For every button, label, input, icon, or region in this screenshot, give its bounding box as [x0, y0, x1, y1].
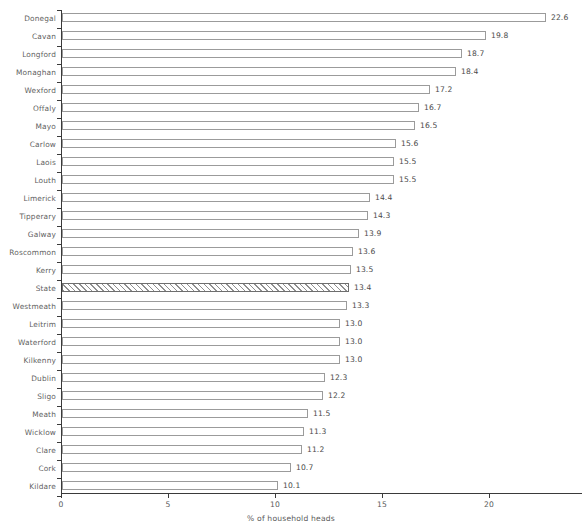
category-label: Longford: [0, 48, 56, 62]
bar-row: Donegal22.6: [62, 10, 582, 28]
bar: [62, 175, 394, 184]
bar-value-label: 13.4: [354, 281, 371, 294]
bar-value-label: 13.3: [352, 299, 369, 312]
category-label: Limerick: [0, 192, 56, 206]
category-label: State: [0, 282, 56, 296]
x-axis-tick: [168, 493, 169, 498]
y-axis-tick: [57, 370, 62, 371]
bar-row: Westmeath13.3: [62, 298, 582, 316]
bar-value-label: 13.0: [345, 317, 362, 330]
bar-value-label: 14.3: [373, 209, 390, 222]
bar-value-label: 18.4: [461, 65, 478, 78]
bar: [62, 31, 486, 40]
x-axis-tick-label: 0: [41, 500, 81, 509]
bar: [62, 139, 396, 148]
bar: [62, 337, 340, 346]
bar-value-label: 12.2: [328, 389, 345, 402]
bar: [62, 427, 304, 436]
y-axis-tick: [57, 478, 62, 479]
bar-row: Laois15.5: [62, 154, 582, 172]
y-axis-tick: [57, 226, 62, 227]
y-axis-tick: [57, 208, 62, 209]
bar-row: Cavan19.8: [62, 28, 582, 46]
bar: [62, 463, 291, 472]
category-label: Offaly: [0, 102, 56, 116]
bar-value-label: 16.5: [420, 119, 437, 132]
bar-value-label: 10.7: [296, 461, 313, 474]
x-axis-title: % of household heads: [0, 514, 582, 523]
bar: [62, 481, 278, 490]
x-axis-tick-label: 20: [469, 500, 509, 509]
bar: [62, 229, 359, 238]
bar-row: Tipperary14.3: [62, 208, 582, 226]
y-axis-tick: [57, 334, 62, 335]
bar-row: Waterford13.0: [62, 334, 582, 352]
x-axis-tick-label: 15: [362, 500, 402, 509]
y-axis-tick: [57, 442, 62, 443]
category-label: Kerry: [0, 264, 56, 278]
bar-row: State13.4: [62, 280, 582, 298]
y-axis-tick: [57, 190, 62, 191]
bar: [62, 211, 368, 220]
category-label: Monaghan: [0, 66, 56, 80]
bar-row: Wicklow11.3: [62, 424, 582, 442]
bar-row: Kilkenny13.0: [62, 352, 582, 370]
x-axis-tick: [382, 493, 383, 498]
bar-value-label: 16.7: [424, 101, 441, 114]
bar: [62, 103, 419, 112]
bar-row: Wexford17.2: [62, 82, 582, 100]
category-label: Galway: [0, 228, 56, 242]
category-label: Cavan: [0, 30, 56, 44]
bar-value-label: 18.7: [467, 47, 484, 60]
bar-value-label: 13.9: [364, 227, 381, 240]
y-axis-tick: [57, 136, 62, 137]
bar-value-label: 11.3: [309, 425, 326, 438]
bar: [62, 265, 351, 274]
bar-value-label: 22.6: [551, 11, 568, 24]
category-label: Kildare: [0, 480, 56, 494]
x-axis-tick: [489, 493, 490, 498]
bar-row: Meath11.5: [62, 406, 582, 424]
category-label: Wicklow: [0, 426, 56, 440]
bar-row: Clare11.2: [62, 442, 582, 460]
bar: [62, 319, 340, 328]
bar-value-label: 13.6: [358, 245, 375, 258]
bar-value-label: 15.6: [401, 137, 418, 150]
category-label: Westmeath: [0, 300, 56, 314]
category-label: Roscommon: [0, 246, 56, 260]
bar: [62, 247, 353, 256]
bar-row: Offaly16.7: [62, 100, 582, 118]
bar-value-label: 15.5: [399, 173, 416, 186]
y-axis-tick: [57, 154, 62, 155]
bar-value-label: 12.3: [330, 371, 347, 384]
y-axis-tick: [57, 316, 62, 317]
bar-row: Carlow15.6: [62, 136, 582, 154]
x-axis-tick-label: 10: [255, 500, 295, 509]
category-label: Tipperary: [0, 210, 56, 224]
y-axis-tick: [57, 46, 62, 47]
x-axis-tick-label: 5: [148, 500, 188, 509]
category-label: Cork: [0, 462, 56, 476]
bar-row: Monaghan18.4: [62, 64, 582, 82]
bar: [62, 445, 302, 454]
bar: [62, 67, 456, 76]
bar-value-label: 19.8: [491, 29, 508, 42]
category-label: Dublin: [0, 372, 56, 386]
bar-value-label: 13.5: [356, 263, 373, 276]
bar-row: Roscommon13.6: [62, 244, 582, 262]
bar: [62, 391, 323, 400]
bar-row: Kerry13.5: [62, 262, 582, 280]
category-label: Clare: [0, 444, 56, 458]
bar-row: Cork10.7: [62, 460, 582, 478]
category-label: Donegal: [0, 12, 56, 26]
bar: [62, 13, 546, 22]
bar: [62, 373, 325, 382]
bar-row: Sligo12.2: [62, 388, 582, 406]
bar: [62, 301, 347, 310]
category-label: Wexford: [0, 84, 56, 98]
bar-value-label: 11.5: [313, 407, 330, 420]
bar: [62, 157, 394, 166]
bar: [62, 409, 308, 418]
bar-value-label: 17.2: [435, 83, 452, 96]
x-axis-line: [61, 493, 582, 494]
